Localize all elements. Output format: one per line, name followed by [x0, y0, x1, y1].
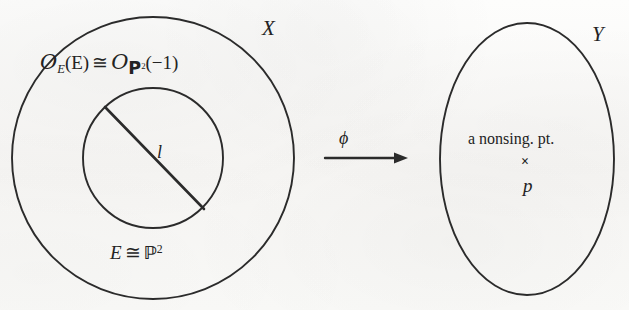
- formula-exceptional-divisor: E≅ℙ2: [110, 243, 163, 262]
- label-x: X: [262, 18, 275, 39]
- formula-sheaf-isomorphism: OE(E)≅OP2(−1): [40, 52, 178, 77]
- label-morphism-phi: ϕ: [339, 129, 348, 147]
- point-marker-cross-icon: ×: [521, 155, 529, 169]
- sheaf-subscript-lhs: E: [57, 62, 65, 76]
- projective-space-symbol: ℙ: [144, 243, 157, 263]
- label-point-p: p: [523, 176, 533, 195]
- label-y: Y: [592, 24, 604, 45]
- diagram-ink-layer: [0, 0, 629, 310]
- sheaf-symbol-rhs: O: [111, 50, 128, 74]
- chord-line-l: [105, 107, 204, 209]
- arrow-right-icon: [325, 153, 408, 164]
- label-nonsingular-point-caption: a nonsing. pt.: [468, 131, 554, 147]
- divisor-symbol-e: E: [110, 242, 122, 263]
- sheaf-subscript-rhs-base: P: [128, 58, 141, 78]
- sheaf-argument-lhs: (E): [65, 52, 89, 73]
- sheaf-argument-rhs: (−1): [146, 52, 179, 73]
- math-diagram-figure: X OE(E)≅OP2(−1) E≅ℙ2 l ϕ Y a nonsing. pt…: [0, 0, 629, 310]
- projective-space-exponent: 2: [157, 243, 163, 256]
- label-line-l: l: [157, 143, 162, 161]
- congruence-symbol-top: ≅: [89, 52, 111, 73]
- sheaf-symbol-lhs: O: [40, 50, 57, 74]
- congruence-symbol-bottom: ≅: [122, 242, 144, 263]
